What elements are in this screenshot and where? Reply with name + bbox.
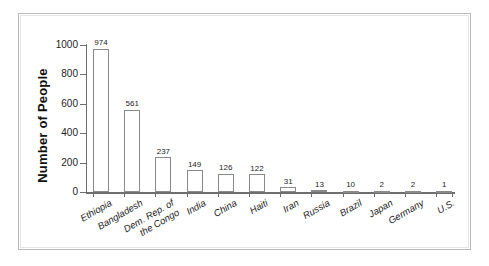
- y-tick-mark: [80, 133, 86, 134]
- y-tick-mark: [80, 74, 86, 75]
- x-tick-mark: [343, 192, 344, 197]
- chart-figure: Number of People 02004006008001000 97456…: [0, 0, 489, 266]
- x-tick-mark: [249, 192, 250, 197]
- y-tick-mark: [80, 192, 86, 193]
- bar-value-label: 10: [336, 180, 366, 189]
- bar: [187, 170, 203, 192]
- bar: [343, 191, 359, 193]
- bar-value-label: 122: [242, 164, 272, 173]
- y-tick-label: 1000: [42, 40, 78, 50]
- bar: [280, 187, 296, 192]
- x-tick-mark: [155, 192, 156, 197]
- y-tick-label: 800: [42, 69, 78, 79]
- bar-value-label: 237: [148, 147, 178, 156]
- y-tick-label-wrap: 600: [36, 99, 78, 109]
- bar: [218, 174, 234, 193]
- x-tick-mark: [124, 192, 125, 197]
- bar: [405, 191, 421, 193]
- bar-value-label: 974: [86, 38, 116, 47]
- y-axis-line: [86, 44, 87, 193]
- y-tick-label: 0: [42, 187, 78, 197]
- x-tick-mark: [187, 192, 188, 197]
- bar-value-label: 2: [367, 180, 397, 189]
- x-tick-mark: [311, 192, 312, 197]
- bar: [249, 174, 265, 192]
- y-tick-label-wrap: 800: [36, 69, 78, 79]
- y-tick-mark: [80, 163, 86, 164]
- bar-value-label: 31: [273, 177, 303, 186]
- x-tick-mark: [218, 192, 219, 197]
- bar-value-label: 126: [211, 163, 241, 172]
- x-axis-line: [86, 192, 455, 194]
- bar-value-label: 1: [429, 180, 459, 189]
- y-tick-label-wrap: 0: [36, 187, 78, 197]
- bar-value-label: 561: [117, 99, 147, 108]
- bar: [124, 110, 140, 193]
- x-tick-mark: [93, 192, 94, 197]
- y-tick-label-wrap: 1000: [36, 40, 78, 50]
- bar: [374, 191, 390, 193]
- y-tick-mark: [80, 104, 86, 105]
- y-tick-label: 600: [42, 99, 78, 109]
- bar-value-label: 149: [180, 160, 210, 169]
- y-tick-label: 400: [42, 128, 78, 138]
- bar-chart-plot-area: Number of People 02004006008001000 97456…: [0, 0, 489, 266]
- bar: [311, 190, 327, 192]
- x-tick-mark: [280, 192, 281, 197]
- y-tick-label-wrap: 200: [36, 158, 78, 168]
- bar: [436, 191, 452, 193]
- bar-value-label: 2: [398, 180, 428, 189]
- y-tick-label-wrap: 400: [36, 128, 78, 138]
- x-tick-mark: [452, 192, 453, 197]
- bar: [93, 49, 109, 192]
- y-tick-label: 200: [42, 158, 78, 168]
- bar-value-label: 13: [304, 180, 334, 189]
- bar: [155, 157, 171, 192]
